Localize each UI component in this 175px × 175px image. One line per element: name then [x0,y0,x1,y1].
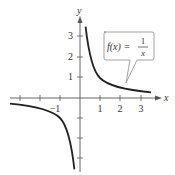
curve-negative-branch [10,104,74,170]
function-callout: f(x) = 1 x [104,32,154,83]
callout-numerator: 1 [141,36,146,46]
y-axis-label: y [76,5,82,16]
x-axis-label: x [163,92,169,103]
x-tick-label-2: 2 [118,103,123,114]
x-tick-label-1: 1 [98,103,103,114]
x-axis-arrow-icon [155,96,162,101]
x-tick-label-3: 3 [139,103,144,114]
callout-denominator: x [140,48,145,58]
callout-lhs: f(x) = [107,41,130,53]
y-tick-label-3: 3 [68,30,73,41]
y-tick-label-2: 2 [68,51,73,62]
y-tick-label-1: 1 [68,71,73,82]
y-axis-arrow-icon [78,16,83,23]
graph-canvas: −1 1 2 3 1 2 3 x y f(x) = 1 x [0,0,175,175]
